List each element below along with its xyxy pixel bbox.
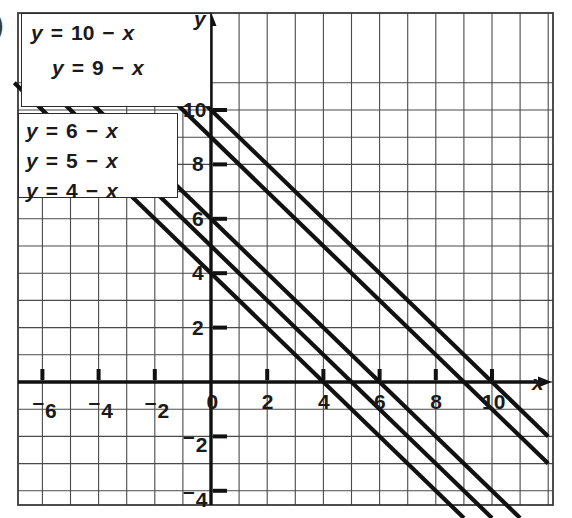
tick-value: 10 bbox=[482, 390, 505, 413]
eq-variable: x bbox=[123, 21, 135, 44]
equation-label-1: y=10−x bbox=[31, 22, 142, 43]
equation-label-5: y=4−x bbox=[26, 180, 126, 201]
eq-variable: x bbox=[106, 179, 118, 202]
raised-minus-sign: – bbox=[89, 391, 101, 412]
eq-variable: x bbox=[106, 149, 118, 172]
tick-value: 8 bbox=[430, 390, 442, 413]
y-axis-label: y bbox=[194, 8, 206, 29]
eq-equals: = bbox=[72, 56, 84, 79]
y-tick-label: 8 bbox=[192, 153, 204, 174]
tick-value: 0 bbox=[207, 390, 219, 413]
eq-constant: 10 bbox=[71, 21, 94, 44]
tick-value: 4 bbox=[318, 390, 330, 413]
eq-minus: − bbox=[86, 119, 98, 142]
eq-constant: 6 bbox=[66, 119, 78, 142]
eq-lhs: y bbox=[26, 179, 38, 202]
eq-minus: − bbox=[112, 56, 124, 79]
tick-value: 2 bbox=[157, 399, 169, 422]
eq-minus: − bbox=[86, 149, 98, 172]
eq-lhs: y bbox=[31, 21, 43, 44]
eq-variable: x bbox=[132, 56, 144, 79]
tick-value: 8 bbox=[192, 152, 204, 175]
x-tick-label: –6 bbox=[32, 391, 56, 421]
y-tick-label: 2 bbox=[192, 317, 204, 338]
eq-lhs: y bbox=[26, 119, 38, 142]
x-tick-label: 10 bbox=[482, 391, 505, 412]
y-tick-label: –4 bbox=[183, 480, 207, 510]
x-tick-label: 0 bbox=[207, 391, 219, 412]
raised-minus-sign: – bbox=[32, 391, 44, 412]
x-tick-label: 8 bbox=[430, 391, 442, 412]
y-tick-label: 10 bbox=[183, 99, 206, 120]
y-tick-label: –2 bbox=[183, 425, 207, 455]
eq-lhs: y bbox=[26, 149, 38, 172]
tick-value: 6 bbox=[45, 399, 57, 422]
eq-lhs: y bbox=[52, 56, 64, 79]
eq-constant: 9 bbox=[92, 56, 104, 79]
tick-value: 4 bbox=[192, 261, 204, 284]
tick-value: 6 bbox=[374, 390, 386, 413]
y-tick-label: 4 bbox=[192, 262, 204, 283]
tick-value: 2 bbox=[196, 433, 208, 456]
tick-value: 2 bbox=[192, 316, 204, 339]
x-tick-label: 2 bbox=[262, 391, 274, 412]
eq-equals: = bbox=[46, 119, 58, 142]
equation-label-3: y=6−x bbox=[26, 120, 126, 141]
tick-value: 2 bbox=[262, 390, 274, 413]
tick-value: 4 bbox=[196, 488, 208, 511]
x-tick-label: 4 bbox=[318, 391, 330, 412]
tick-value: 6 bbox=[192, 207, 204, 230]
equation-label-4: y=5−x bbox=[26, 150, 126, 171]
x-tick-label: –4 bbox=[89, 391, 113, 421]
x-tick-label: –2 bbox=[145, 391, 169, 421]
raised-minus-sign: – bbox=[183, 425, 195, 446]
eq-equals: = bbox=[46, 149, 58, 172]
eq-constant: 4 bbox=[66, 179, 78, 202]
eq-equals: = bbox=[46, 179, 58, 202]
raised-minus-sign: – bbox=[183, 480, 195, 501]
graph-figure: ) y=10−xy=9−xy=6−xy=5−xy=4−x –6–4–202468… bbox=[0, 0, 572, 518]
equation-label-2: y=9−x bbox=[52, 57, 152, 78]
x-tick-label: 6 bbox=[374, 391, 386, 412]
tick-value: 10 bbox=[183, 98, 206, 121]
eq-variable: x bbox=[106, 119, 118, 142]
eq-minus: − bbox=[102, 21, 114, 44]
raised-minus-sign: – bbox=[145, 391, 157, 412]
x-axis-label: x bbox=[532, 372, 544, 393]
y-tick-label: 6 bbox=[192, 208, 204, 229]
eq-minus: − bbox=[86, 179, 98, 202]
eq-equals: = bbox=[51, 21, 63, 44]
tick-value: 4 bbox=[101, 399, 113, 422]
eq-constant: 5 bbox=[66, 149, 78, 172]
